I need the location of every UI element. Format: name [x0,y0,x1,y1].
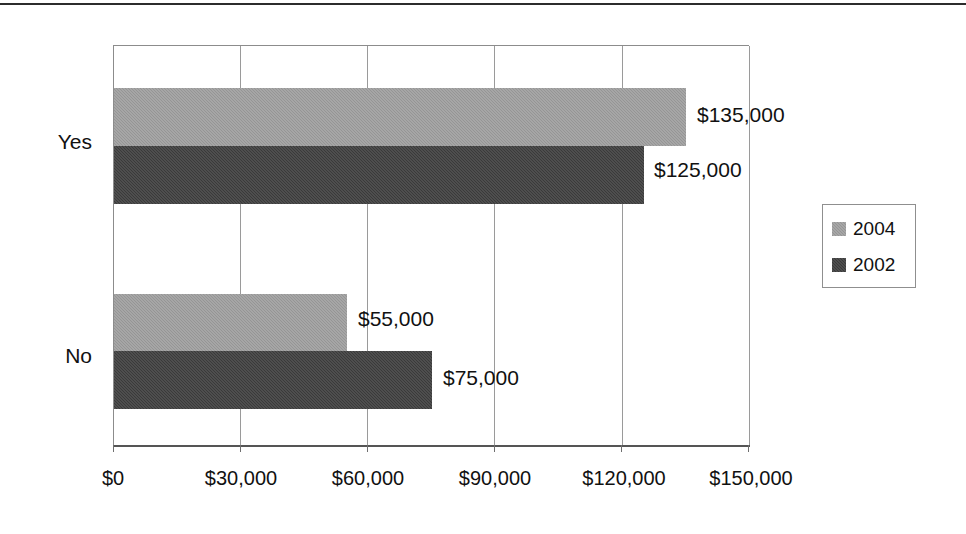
legend-entry-2004[interactable]: 2004 [832,219,895,238]
xtick-label-0: $0 [102,468,124,488]
xtick-30000 [240,445,241,452]
bar-no-2002[interactable] [114,351,432,409]
xtick-label-90000: $90,000 [459,468,531,488]
scanned-page: $135,000 $125,000 $55,000 $75,000 Yes No… [0,0,966,534]
legend-swatch-2002-icon [832,258,846,272]
xtick-label-120000: $120,000 [582,468,665,488]
legend-entry-2002[interactable]: 2002 [832,255,895,274]
value-label-no-2004: $55,000 [358,308,434,329]
legend-label-2004: 2004 [853,219,895,238]
category-label-yes: Yes [0,131,92,152]
xtick-120000 [621,445,622,452]
xtick-label-60000: $60,000 [332,468,404,488]
x-axis-line [113,445,750,447]
xtick-60000 [367,445,368,452]
legend-swatch-2004-icon [832,222,846,236]
bar-no-2004[interactable] [114,294,347,351]
xtick-label-30000: $30,000 [205,468,277,488]
value-label-yes-2004: $135,000 [697,104,785,125]
legend-label-2002: 2002 [853,255,895,274]
xtick-label-150000: $150,000 [709,468,792,488]
bar-yes-2002[interactable] [114,146,644,204]
xtick-0 [113,445,114,452]
category-label-no: No [0,345,92,366]
value-label-no-2002: $75,000 [443,367,519,388]
plot-area [113,45,749,445]
value-label-yes-2002: $125,000 [654,159,742,180]
bar-yes-2004[interactable] [114,88,686,146]
bar-chart-figure: $135,000 $125,000 $55,000 $75,000 Yes No… [0,0,966,534]
chart-legend: 2004 2002 [822,204,916,288]
xtick-150000 [748,445,749,452]
xtick-90000 [494,445,495,452]
